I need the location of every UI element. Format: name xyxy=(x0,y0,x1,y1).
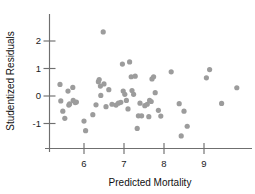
data-point xyxy=(169,69,174,74)
y-tick-label: -1 xyxy=(33,118,41,129)
data-point xyxy=(74,99,79,104)
data-point xyxy=(120,62,125,67)
data-point xyxy=(65,88,70,93)
data-point xyxy=(153,90,158,95)
data-point xyxy=(57,82,62,87)
data-point xyxy=(60,109,65,114)
data-point xyxy=(135,126,140,131)
data-point xyxy=(181,109,186,114)
data-point xyxy=(127,59,132,64)
data-point xyxy=(149,99,154,104)
data-point xyxy=(131,92,136,97)
data-point xyxy=(62,116,67,121)
data-point xyxy=(98,93,103,98)
data-point xyxy=(158,113,163,118)
data-point xyxy=(97,77,102,82)
data-point xyxy=(133,74,138,79)
axes-group xyxy=(45,14,252,152)
x-tick-label: 8 xyxy=(161,158,166,169)
data-point xyxy=(93,102,98,107)
data-point xyxy=(177,101,182,106)
data-point xyxy=(124,98,129,103)
data-point xyxy=(207,67,212,72)
data-point xyxy=(118,100,123,105)
x-tick-group: 6789 xyxy=(81,143,206,169)
data-point xyxy=(204,75,209,80)
plot-canvas: 210-1 6789 Predicted Mortality Studentiz… xyxy=(0,0,255,194)
data-points-group xyxy=(57,29,239,138)
data-point xyxy=(185,124,190,129)
y-axis-title: Studentized Residuals xyxy=(5,31,16,131)
data-point xyxy=(234,85,239,90)
data-point xyxy=(81,118,86,123)
data-point xyxy=(101,81,106,86)
data-point xyxy=(101,29,106,34)
data-point xyxy=(146,114,151,119)
data-point xyxy=(125,106,130,111)
y-tick-group: 210-1 xyxy=(33,35,56,128)
data-point xyxy=(122,92,127,97)
data-point xyxy=(90,112,95,117)
y-tick-label: 2 xyxy=(36,35,41,46)
data-point xyxy=(219,101,224,106)
x-tick-label: 9 xyxy=(201,158,206,169)
scatter-plot-figure: 210-1 6789 Predicted Mortality Studentiz… xyxy=(0,0,255,194)
x-axis-title: Predicted Mortality xyxy=(109,177,192,188)
data-point xyxy=(58,98,63,103)
y-tick-label: 0 xyxy=(36,90,41,101)
data-point xyxy=(179,133,184,138)
data-point xyxy=(70,85,75,90)
x-tick-label: 6 xyxy=(81,158,86,169)
data-point xyxy=(151,74,156,79)
data-point xyxy=(83,128,88,133)
data-point xyxy=(137,101,142,106)
data-point xyxy=(106,87,111,92)
x-tick-label: 7 xyxy=(121,158,126,169)
data-point xyxy=(156,108,161,113)
data-point xyxy=(103,104,108,109)
y-tick-label: 1 xyxy=(36,63,41,74)
data-point xyxy=(139,113,144,118)
